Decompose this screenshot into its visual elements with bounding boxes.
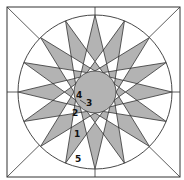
piece-label-5: 5 — [75, 155, 81, 164]
piece-label-2: 2 — [72, 109, 78, 118]
piece-label-1: 1 — [74, 130, 80, 139]
compass-diagram — [0, 0, 184, 180]
piece-label-3: 3 — [86, 99, 92, 108]
piece-label-4: 4 — [76, 91, 82, 100]
